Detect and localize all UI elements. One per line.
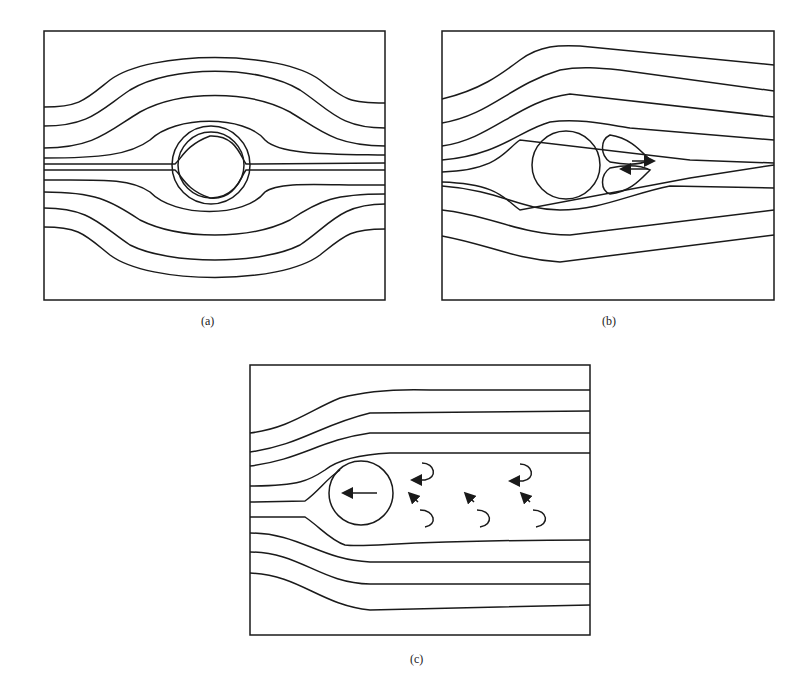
figure-canvas xyxy=(0,0,811,687)
cylinder-a xyxy=(178,132,244,198)
panel-a xyxy=(44,31,385,300)
panel-label-b: (b) xyxy=(602,314,616,329)
cylinder-b xyxy=(532,131,600,199)
panel-label-a: (a) xyxy=(201,314,214,329)
panel-c xyxy=(250,365,590,635)
panel-label-c: (c) xyxy=(410,652,423,667)
panel-b xyxy=(442,31,774,300)
